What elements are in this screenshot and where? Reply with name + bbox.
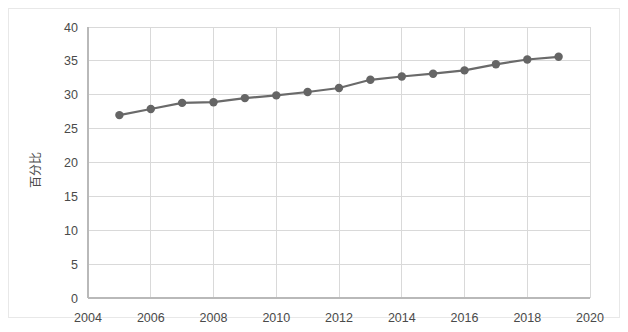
x-tick-label: 2010 bbox=[262, 311, 290, 325]
y-axis-title: 百分比 bbox=[29, 152, 43, 188]
x-tick-label: 2016 bbox=[451, 311, 479, 325]
data-point-marker bbox=[241, 94, 249, 102]
x-tick-labels: 2004 2006 2008 2010 2012 2014 2016 2018 … bbox=[74, 311, 604, 325]
x-tick-label: 2018 bbox=[513, 311, 541, 325]
chart-svg: 40 35 30 25 20 15 10 5 0 2004 2006 2008 … bbox=[0, 0, 628, 332]
x-tick-label: 2006 bbox=[137, 311, 165, 325]
data-point-marker bbox=[178, 99, 186, 107]
x-tick-label: 2008 bbox=[200, 311, 228, 325]
y-tick-label: 20 bbox=[64, 156, 78, 170]
data-point-marker bbox=[303, 88, 311, 96]
data-point-marker bbox=[115, 111, 123, 119]
line-chart: 40 35 30 25 20 15 10 5 0 2004 2006 2008 … bbox=[0, 0, 628, 332]
x-tick-label: 2020 bbox=[576, 311, 604, 325]
data-point-marker bbox=[460, 66, 468, 74]
x-tick-label: 2014 bbox=[388, 311, 416, 325]
data-point-marker bbox=[272, 91, 280, 99]
y-tick-labels: 40 35 30 25 20 15 10 5 0 bbox=[64, 21, 78, 306]
data-point-marker bbox=[147, 105, 155, 113]
data-point-marker bbox=[554, 53, 562, 61]
y-tick-label: 5 bbox=[71, 258, 78, 272]
data-point-marker bbox=[398, 72, 406, 80]
y-tick-label: 35 bbox=[64, 54, 78, 68]
data-point-marker bbox=[366, 76, 374, 84]
y-tick-label: 15 bbox=[64, 190, 78, 204]
x-tick-label: 2004 bbox=[74, 311, 102, 325]
y-tick-label: 0 bbox=[71, 292, 78, 306]
y-tick-label: 10 bbox=[64, 224, 78, 238]
chart-screenshot: 40 35 30 25 20 15 10 5 0 2004 2006 2008 … bbox=[0, 0, 628, 332]
data-point-marker bbox=[492, 60, 500, 68]
data-point-marker bbox=[335, 84, 343, 92]
y-tick-label: 30 bbox=[64, 88, 78, 102]
data-point-marker bbox=[429, 70, 437, 78]
y-tick-label: 40 bbox=[64, 21, 78, 35]
x-tick-label: 2012 bbox=[325, 311, 353, 325]
data-point-marker bbox=[523, 55, 531, 63]
y-tick-label: 25 bbox=[64, 122, 78, 136]
data-point-marker bbox=[209, 98, 217, 106]
